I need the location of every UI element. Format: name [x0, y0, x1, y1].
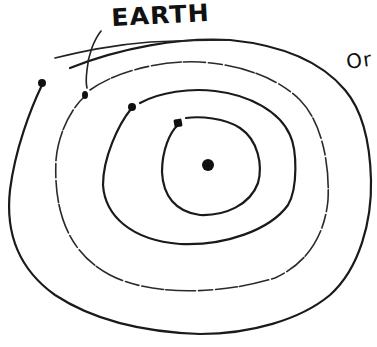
orbit-3-earth [56, 62, 329, 291]
planet-orbit-2-icon [128, 103, 136, 111]
orbit-2 [103, 90, 295, 244]
earth-label: EARTH [111, 0, 211, 32]
cutoff-label: Or [345, 47, 374, 74]
orbit-4 [9, 40, 371, 334]
planet-orbit-4-icon [38, 79, 46, 87]
sun-icon [202, 159, 214, 171]
earth-underline [55, 40, 230, 58]
solar-system-diagram [0, 0, 377, 347]
planet-orbit-1-icon [173, 118, 182, 127]
planet-earth-icon [82, 91, 88, 99]
